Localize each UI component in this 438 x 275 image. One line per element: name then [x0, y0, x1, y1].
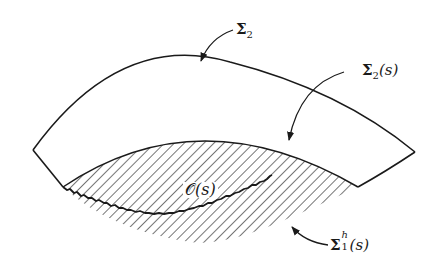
label-sigma2-s: Σ2(s) [362, 63, 398, 81]
label-sigma1-h-s: Σh1(s) [330, 235, 369, 253]
argument: (s) [350, 236, 369, 254]
outer-upper-boundary [33, 55, 415, 152]
sigma1h-leader-arrow [292, 227, 328, 245]
sigma2s-leader-arrow [289, 72, 344, 140]
outer-lower-left-boundary [33, 150, 63, 187]
sigma-symbol: Σ [330, 236, 341, 254]
subscript: 2 [247, 29, 253, 40]
label-sigma2: Σ2 [236, 22, 253, 40]
outer-lower-right-boundary [358, 152, 415, 187]
superscript: h [342, 230, 348, 240]
sub-superscript: h1 [341, 235, 350, 250]
label-region-o-s: 𝒪(s) [183, 182, 218, 198]
hatched-region [0, 0, 438, 275]
sigma-symbol: Σ [236, 20, 247, 38]
sigma-symbol: Σ [362, 61, 373, 79]
diagram-canvas [0, 0, 438, 275]
region-symbol: 𝒪 [185, 180, 195, 199]
diagram-figure: Σ2 Σ2(s) Σh1(s) 𝒪(s) [0, 0, 438, 275]
argument: (s) [379, 61, 398, 79]
subscript: 1 [342, 242, 348, 252]
argument: (s) [195, 180, 216, 199]
